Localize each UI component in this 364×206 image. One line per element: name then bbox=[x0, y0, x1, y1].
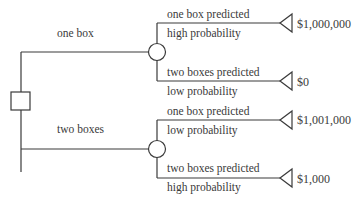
decision-node-square bbox=[11, 92, 30, 110]
outcome-prediction-1b: two boxes predicted bbox=[167, 66, 260, 79]
outcome-prediction-2a: one box predicted bbox=[167, 105, 250, 118]
payoff-1a: $1,000,000 bbox=[297, 17, 351, 31]
branch-label-two-boxes: two boxes bbox=[57, 123, 104, 135]
outcome-prediction-2b: two boxes predicted bbox=[167, 162, 260, 175]
outcome-probability-2b: high probability bbox=[167, 181, 241, 194]
outcome-probability-1a: high probability bbox=[167, 27, 241, 40]
chance-node-1 bbox=[149, 44, 166, 61]
payoff-2b: $1,000 bbox=[297, 172, 330, 186]
outcome-prediction-1a: one box predicted bbox=[167, 8, 250, 21]
branch-label-one-box: one box bbox=[57, 27, 94, 39]
terminal-triangle-1a bbox=[280, 14, 292, 32]
payoff-2a: $1,001,000 bbox=[297, 113, 351, 127]
payoff-1b: $0 bbox=[297, 75, 309, 89]
outcome-probability-2a: low probability bbox=[167, 124, 238, 137]
outcome-probability-1b: low probability bbox=[167, 85, 238, 98]
terminal-triangle-2a bbox=[280, 111, 292, 129]
decision-tree-diagram: one box one box predicted high probabili… bbox=[0, 0, 364, 206]
terminal-triangle-1b bbox=[280, 72, 292, 90]
chance-node-2 bbox=[149, 141, 166, 158]
terminal-triangle-2b bbox=[280, 169, 292, 187]
